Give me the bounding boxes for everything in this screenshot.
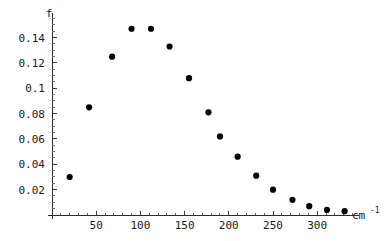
ticks-group [52, 19, 353, 215]
data-point [324, 207, 330, 213]
y-axis-tick-label: 0.12 [19, 57, 46, 70]
y-axis-tick-label: 0.08 [19, 108, 46, 121]
data-point [253, 173, 259, 179]
data-point [342, 208, 348, 214]
data-point [205, 109, 211, 115]
x-axis-title-exponent: -1 [370, 206, 380, 215]
y-axis-title: f [46, 7, 53, 20]
y-axis-tick-label: 0.02 [19, 184, 46, 197]
data-point [270, 187, 276, 193]
x-axis-tick-label: 100 [130, 219, 150, 232]
data-point [166, 43, 172, 49]
data-point [306, 203, 312, 209]
axes-group [48, 13, 359, 219]
data-point [186, 75, 192, 81]
y-axis-tick-label: 0.04 [19, 158, 46, 171]
x-axis-title: cm [352, 209, 366, 222]
y-axis-tick-label: 0.1 [25, 82, 45, 95]
axis-titles-group: fcm-1 [46, 7, 380, 222]
plot-canvas: 501001502002503000.020.040.060.080.10.12… [0, 0, 391, 241]
data-point [148, 26, 154, 32]
data-point [67, 174, 73, 180]
x-axis-tick-label: 250 [263, 219, 283, 232]
x-axis-tick-label: 300 [307, 219, 327, 232]
data-point [128, 26, 134, 32]
data-point [289, 197, 295, 203]
data-point [217, 133, 223, 139]
x-axis-tick-label: 150 [175, 219, 195, 232]
scatter-plot-figure: 501001502002503000.020.040.060.080.10.12… [0, 0, 391, 241]
x-axis-tick-label: 50 [90, 219, 103, 232]
data-point [86, 104, 92, 110]
tick-labels-group: 501001502002503000.020.040.060.080.10.12… [19, 32, 328, 232]
data-point [109, 54, 115, 60]
x-axis-tick-label: 200 [219, 219, 239, 232]
y-axis-tick-label: 0.14 [19, 32, 46, 45]
data-points-group [67, 26, 348, 215]
y-axis-tick-label: 0.06 [19, 133, 46, 146]
data-point [235, 154, 241, 160]
